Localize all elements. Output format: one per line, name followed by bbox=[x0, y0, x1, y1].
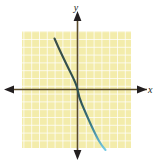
y-axis-bottom-arrowhead bbox=[74, 150, 82, 160]
graph-canvas: y x bbox=[0, 0, 156, 165]
y-axis-label: y bbox=[73, 2, 79, 13]
coordinate-plane-figure: y x bbox=[0, 0, 156, 165]
x-axis-label: x bbox=[147, 84, 153, 95]
x-axis-right-arrowhead bbox=[137, 86, 147, 94]
x-axis-left-arrowhead bbox=[4, 86, 14, 94]
